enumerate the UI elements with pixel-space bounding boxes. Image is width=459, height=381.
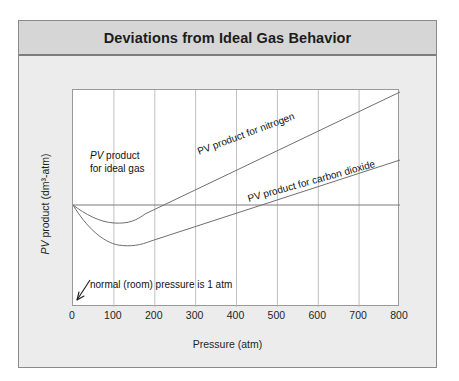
figure-title-bar: Deviations from Ideal Gas Behavior — [19, 21, 436, 56]
x-tick-200: 200 — [145, 309, 163, 321]
x-axis-tick-labels: 0 100 200 300 400 500 600 700 800 — [72, 309, 399, 325]
y-axis-title-italic-part: PV — [39, 240, 51, 254]
y-axis-title: PV product (dm³-atm) — [39, 134, 51, 274]
annotation-arrow — [77, 280, 90, 300]
x-tick-600: 600 — [308, 309, 326, 321]
x-tick-300: 300 — [186, 309, 204, 321]
curve-label-ideal-gas: PV product for ideal gas — [90, 150, 144, 175]
curve-label-ideal-italic: PV — [90, 150, 103, 161]
x-tick-0: 0 — [69, 309, 75, 321]
x-tick-500: 500 — [268, 309, 286, 321]
figure-title: Deviations from Ideal Gas Behavior — [104, 30, 352, 46]
curve-label-ideal-line2: for ideal gas — [90, 163, 144, 174]
x-tick-100: 100 — [104, 309, 122, 321]
gridlines-vertical — [114, 90, 359, 307]
x-tick-700: 700 — [349, 309, 367, 321]
x-tick-800: 800 — [390, 309, 408, 321]
figure-container: Deviations from Ideal Gas Behavior PV pr… — [18, 20, 437, 368]
y-axis-title-rest: product (dm³-atm) — [39, 154, 51, 241]
figure-body: PV product (dm³-atm) — [19, 56, 436, 367]
plot-area: PV product for ideal gas PV product for … — [72, 89, 399, 306]
annotation-normal-pressure: normal (room) pressure is 1 atm — [90, 279, 232, 292]
curve-label-ideal-rest: product — [103, 150, 139, 161]
x-axis-title: Pressure (atm) — [19, 338, 436, 350]
plot-canvas — [73, 90, 400, 307]
x-tick-400: 400 — [227, 309, 245, 321]
